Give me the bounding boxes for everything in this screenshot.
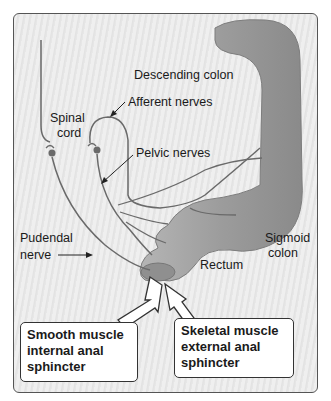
label-nerve: nerve [20, 248, 51, 262]
spinal-cord-line [41, 40, 50, 142]
callout-internal-line3: sphincter [27, 359, 131, 375]
callout-internal-sphincter: Smooth muscle internal anal sphincter [20, 322, 138, 382]
label-colon: colon [268, 246, 298, 260]
callout-external-line1: Skeletal muscle [181, 323, 287, 339]
callout-external-line3: sphincter [181, 355, 287, 371]
label-pelvic-nerves: Pelvic nerves [136, 146, 210, 160]
pudendal-nerve-line [52, 157, 150, 270]
callout-external-sphincter: Skeletal muscle external anal sphincter [174, 318, 294, 378]
label-pudendal: Pudendal [20, 231, 73, 245]
label-afferent-nerves: Afferent nerves [128, 95, 213, 109]
pelvic-neuron-dot [94, 147, 101, 154]
label-sigmoid: Sigmoid [265, 231, 310, 245]
callout-internal-line2: internal anal [27, 343, 131, 359]
callout-internal-line1: Smooth muscle [27, 327, 131, 343]
label-rectum: Rectum [200, 258, 243, 272]
spinal-neuron-dot [49, 150, 56, 157]
arrow-internal [118, 277, 162, 328]
label-spinal: Spinal [50, 111, 85, 125]
label-descending-colon: Descending colon [134, 68, 233, 82]
sphincter-shape [141, 263, 175, 281]
callout-external-line2: external anal [181, 339, 287, 355]
label-cord: cord [57, 126, 81, 140]
pelvic-nerve-line [97, 154, 152, 255]
